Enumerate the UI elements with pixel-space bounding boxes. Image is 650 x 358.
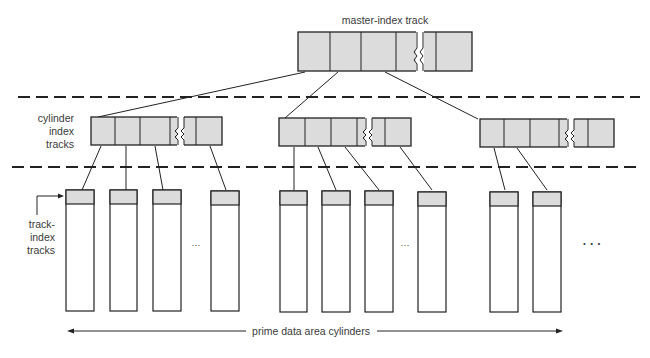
prime-data-cylinders: [66, 190, 561, 312]
pointer-line: [285, 72, 338, 118]
ellipsis-group-3: · · ·: [583, 237, 602, 251]
svg-text:index: index: [30, 231, 56, 243]
cylinder-index-track-1: [91, 116, 222, 147]
cylinder: [280, 191, 307, 312]
cylinder: [153, 190, 181, 311]
ellipsis-group-1: ···: [192, 240, 201, 250]
pointer-line: [98, 72, 305, 117]
arrow-left-icon: [67, 329, 74, 334]
prime-data-label: prime data area cylinders: [252, 325, 370, 337]
ellipsis-group-2: ···: [401, 240, 410, 250]
cylinder: [490, 192, 518, 312]
svg-text:track-: track-: [29, 218, 56, 230]
track-index-label: track- index tracks: [27, 194, 64, 257]
cylinder: [533, 192, 561, 312]
cylinder: [322, 191, 350, 312]
master-index-track: [298, 31, 472, 73]
arrow-right-icon: [556, 329, 563, 334]
svg-text:index: index: [49, 125, 75, 137]
cylinder-index-track-2: [279, 117, 411, 148]
arrow-head-icon: [58, 194, 64, 199]
svg-text:cylinder: cylinder: [38, 112, 75, 124]
cylinder: [211, 191, 239, 311]
indexed-sequential-file-diagram: master-index track cylinder index tracks: [0, 0, 650, 358]
arrow-line: [37, 196, 62, 215]
prime-data-area-axis: prime data area cylinders: [67, 325, 563, 337]
pointer-line: [385, 72, 478, 119]
cylinder-pointer-lines: [82, 146, 547, 190]
cylinder-index-label: cylinder index tracks: [38, 112, 75, 150]
master-index-label: master-index track: [342, 14, 429, 26]
cylinder: [110, 190, 137, 311]
svg-text:tracks: tracks: [46, 138, 74, 150]
cylinder: [418, 192, 446, 312]
cylinder-index-track-3: [480, 118, 614, 149]
svg-text:tracks: tracks: [27, 244, 55, 256]
cylinder: [365, 191, 393, 312]
cylinder: [66, 190, 94, 311]
